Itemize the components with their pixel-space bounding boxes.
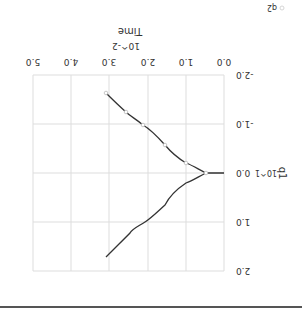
bottom-divider [0,306,302,308]
y-tick-label: 2.0 [236,266,251,276]
data-point-marker [184,161,188,165]
data-point-marker [204,171,208,175]
y-axis-label: q1 [277,167,288,180]
chart-svg: 0.0 1.0 2.0 3.0 4.0 5.0 10^-2 Time 2.0 1… [0,0,302,311]
x-tick-label: 1.0 [179,57,194,67]
x-tick-label: 3.0 [102,57,117,67]
series-positive-branch [106,173,224,257]
x-multiplier: 10^-2 [112,41,140,51]
legend: q2 [267,3,284,12]
y-multiplier: 10^1 [255,168,277,177]
y-tick-label: 0.0 [236,168,251,178]
chart-rotated-container: 0.0 1.0 2.0 3.0 4.0 5.0 10^-2 Time 2.0 1… [0,0,302,311]
x-tick-label: 2.0 [141,57,156,67]
y-tick-label: -2.0 [236,70,254,80]
legend-marker-icon [280,6,284,10]
y-tick-label: 1.0 [236,217,251,227]
grid [33,75,224,271]
series-markers [104,91,208,175]
data-point-marker [104,91,108,95]
x-tick-label: 0.0 [217,57,232,67]
y-axis-title: 10^1 q1 [255,167,288,180]
series-negative-branch [106,93,206,173]
x-tick-label: 4.0 [64,57,79,67]
x-tick-labels: 0.0 1.0 2.0 3.0 4.0 5.0 [26,57,232,67]
y-tick-label: -1.0 [236,119,254,129]
data-point-marker [124,110,128,114]
x-axis-title: 10^-2 Time [112,26,143,51]
x-axis-label: Time [118,26,143,37]
y-tick-labels: 2.0 1.0 0.0 -1.0 -2.0 [236,70,254,276]
x-tick-label: 5.0 [26,57,41,67]
data-point-marker [141,123,145,127]
data-point-marker [163,143,167,147]
legend-label: q2 [267,3,277,12]
